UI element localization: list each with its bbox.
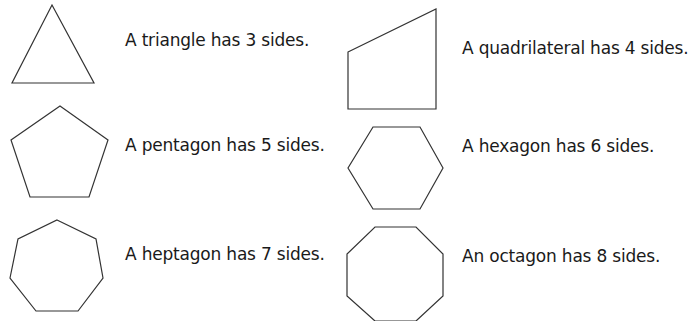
- triangle-shape: [12, 5, 94, 83]
- hexagon-shape: [348, 127, 443, 209]
- hexagon-label: A hexagon has 6 sides.: [462, 136, 654, 156]
- octagon-label: An octagon has 8 sides.: [462, 246, 660, 266]
- quadrilateral-shape: [348, 9, 436, 109]
- heptagon-shape: [10, 220, 103, 311]
- octagon-shape: [347, 227, 443, 321]
- quadrilateral-label: A quadrilateral has 4 sides.: [462, 38, 688, 58]
- heptagon-label: A heptagon has 7 sides.: [125, 244, 325, 264]
- pentagon-label: A pentagon has 5 sides.: [125, 135, 325, 155]
- pentagon-shape: [11, 106, 108, 197]
- triangle-label: A triangle has 3 sides.: [125, 30, 309, 50]
